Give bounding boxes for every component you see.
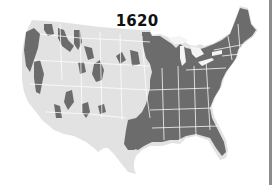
us-forest-map: [0, 0, 274, 185]
map-figure: 1620: [0, 0, 274, 185]
frame-right-edge: [269, 0, 272, 185]
